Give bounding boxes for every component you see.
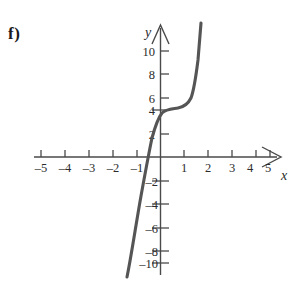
y-tick-label: 8: [149, 68, 155, 82]
x-axis-ticks: [41, 150, 270, 157]
x-tick-label: –3: [82, 161, 96, 175]
y-axis-label: y: [143, 25, 152, 40]
x-tick-label: 4: [247, 161, 254, 175]
y-tick-label: –10: [138, 257, 158, 271]
x-tick-label: 3: [229, 161, 235, 175]
x-tick-label: –5: [34, 161, 48, 175]
graph-figure: –5 –4 –3 –2 –1 1 2 3 4 5 10 8 6 4 2 –2 –…: [0, 0, 299, 285]
y-tick-label: –2: [145, 175, 159, 189]
x-tick-label: –4: [58, 161, 72, 175]
y-tick-label: 4: [149, 104, 156, 118]
x-tick-label: –2: [106, 161, 120, 175]
x-tick-label: 1: [181, 161, 187, 175]
y-tick-label: –4: [145, 198, 159, 212]
x-tick-label: 2: [205, 161, 211, 175]
cubic-curve: [127, 23, 201, 277]
coordinate-plane: –5 –4 –3 –2 –1 1 2 3 4 5 10 8 6 4 2 –2 –…: [0, 0, 299, 285]
x-tick-label: 5: [265, 161, 271, 175]
y-tick-label: 10: [143, 45, 156, 59]
x-axis-label: x: [280, 168, 288, 183]
x-tick-label: –1: [130, 161, 144, 175]
y-tick-label: –6: [145, 222, 159, 236]
